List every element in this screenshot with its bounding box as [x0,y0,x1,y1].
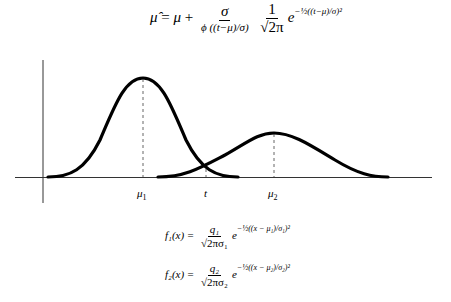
mu2-subscript: 2 [274,193,278,202]
normalizing-fraction: q₂ √2πσ₂ [199,263,230,288]
mu2-label: μ2 [268,187,278,202]
curve-f2 [158,133,388,177]
exponent: −½((x − μ₁)/σ₁)² [237,224,290,233]
fraction-numerator: q₂ [208,263,221,276]
mu1-label: μ1 [137,187,147,202]
t-label: t [204,187,207,199]
fraction-denominator: √2πσ₂ [199,276,230,288]
fraction-denominator: √2πσ₁ [199,237,230,249]
gaussian-diagram [0,0,451,302]
normalizing-fraction: q₁ √2πσ₁ [199,224,230,249]
mu1-subscript: 1 [143,193,147,202]
formula-f1: f₁(x) = q₁ √2πσ₁ e−½((x − μ₁)/σ₁)² [165,224,290,249]
formula-lhs: f₁(x) = [165,229,194,241]
fraction-numerator: q₁ [208,224,221,237]
t-symbol: t [204,187,207,199]
formula-f2: f₂(x) = q₂ √2πσ₂ e−½((x − μ₂)/σ₂)² [165,263,290,288]
formula-lhs: f₂(x) = [165,268,194,280]
exponent: −½((x − μ₂)/σ₂)² [237,263,290,272]
